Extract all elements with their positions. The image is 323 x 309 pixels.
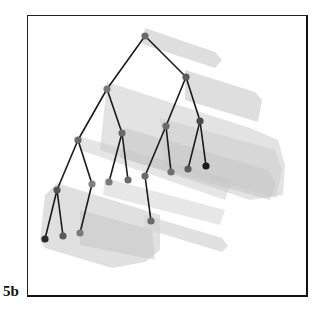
tree-node-lr (118, 129, 125, 136)
tree-node-r1l_a_a (147, 217, 154, 224)
tree-node-llr_a (76, 229, 83, 236)
tree-node-r1r_b (202, 162, 209, 169)
tree-node-lll (53, 186, 60, 193)
tree-node-root (141, 32, 148, 39)
tree-node-llr (88, 180, 95, 187)
tree-node-lll_a (41, 235, 48, 242)
tree-edge (107, 36, 145, 89)
tree-node-r1r_a (184, 165, 191, 172)
tree-node-r1r (196, 117, 203, 124)
tree-node-lr_a (105, 178, 112, 185)
tree-node-r1 (182, 73, 189, 80)
tree-diagram (0, 0, 323, 309)
tree-node-r1l_b (167, 168, 174, 175)
tree-node-r1l_a (141, 172, 148, 179)
tree-node-lll_b (59, 232, 66, 239)
tree-node-ll (74, 136, 81, 143)
tree-node-lr_b (124, 176, 131, 183)
tree-node-r1l (162, 122, 169, 129)
tree-node-l1 (103, 85, 110, 92)
segment-shadow (142, 28, 222, 68)
tree-edge (57, 140, 78, 190)
